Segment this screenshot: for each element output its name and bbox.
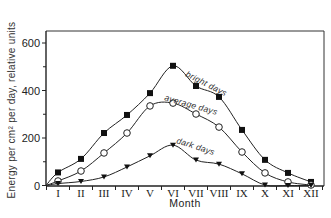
circle-marker: [147, 103, 154, 110]
series-dark-days: [46, 143, 314, 188]
x-axis-title: Month: [169, 197, 201, 209]
x-tick-label: I: [56, 187, 60, 199]
triangle-marker: [147, 153, 153, 158]
triangle-marker: [124, 164, 130, 169]
series-group: [46, 63, 314, 189]
square-marker: [78, 156, 84, 162]
circle-marker: [124, 130, 131, 137]
circle-marker: [101, 150, 108, 157]
triangle-marker: [193, 158, 199, 163]
circle-marker: [262, 170, 269, 177]
x-tick-label: X: [261, 187, 269, 199]
square-marker: [262, 157, 268, 163]
series-label-bright: bright days: [184, 69, 229, 98]
y-tick-label: 200: [22, 132, 40, 144]
square-marker: [55, 169, 61, 175]
circle-marker: [239, 149, 246, 156]
square-marker: [147, 90, 153, 96]
y-tick-label: 400: [22, 85, 40, 97]
y-axis-title: Energy per cm² per day, relative units: [6, 22, 17, 199]
triangle-marker: [239, 171, 245, 176]
y-tick-label: 0: [34, 180, 40, 192]
x-tick-label: IV: [121, 187, 133, 199]
line-chart: 0200400600 IIIIIIIVVVIVIIVIIIIXXXIXII Mo…: [0, 0, 331, 218]
x-tick-label: VIII: [210, 187, 229, 199]
square-marker: [239, 127, 245, 133]
square-marker: [285, 170, 291, 176]
x-tick-label: IX: [236, 187, 248, 199]
series-label-dark: dark days: [175, 135, 216, 157]
circle-marker: [78, 168, 85, 175]
x-tick-label: V: [146, 187, 154, 199]
square-marker: [101, 130, 107, 136]
x-tick-label: II: [77, 187, 85, 199]
square-marker: [170, 63, 176, 69]
x-tick-label: XI: [282, 187, 294, 199]
y-tick-label: 600: [22, 37, 40, 49]
square-marker: [124, 112, 130, 118]
circle-marker: [216, 124, 223, 131]
triangle-marker: [101, 174, 107, 179]
y-ticks: 0200400600: [22, 37, 46, 192]
plot-frame: [46, 31, 324, 186]
x-tick-label: III: [99, 187, 110, 199]
triangle-marker: [216, 162, 222, 167]
